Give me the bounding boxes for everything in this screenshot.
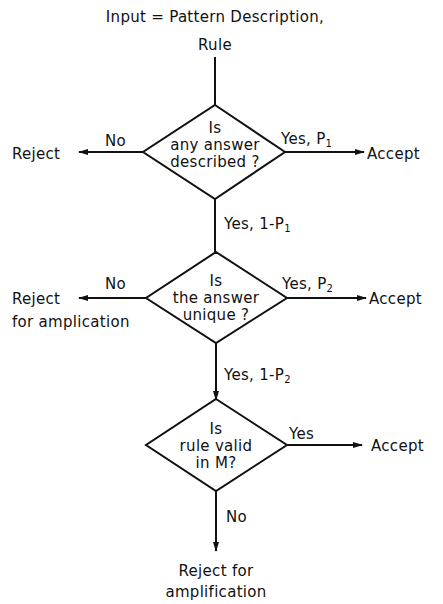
decision-1-down-label: Yes, 1-P1 (224, 215, 291, 238)
decision-2-yes-label: Yes, P2 (282, 275, 333, 298)
input-label-line2: Rule (60, 36, 370, 54)
decision-3-reject-line1: Reject for (116, 562, 316, 580)
yes-text: Yes, P (282, 275, 327, 293)
question-line: Is (150, 120, 280, 137)
decision-3-accept: Accept (371, 437, 424, 455)
decision-3-question: Is rule valid in M? (151, 421, 281, 472)
question-line: described ? (150, 154, 280, 171)
decision-2-reject-line2: for amplication (12, 313, 130, 331)
question-line: Is (151, 273, 281, 290)
decision-2-no-label: No (105, 275, 126, 293)
yes-text: Yes, 1-P (224, 366, 284, 384)
subscript: 1 (284, 223, 291, 234)
decision-1-accept: Accept (367, 145, 420, 163)
question-line: unique ? (151, 307, 281, 324)
decision-1-reject: Reject (12, 145, 60, 163)
yes-text: Yes, 1-P (224, 215, 284, 233)
decision-3-reject-line2: amplification (116, 583, 316, 601)
question-line: the answer (151, 290, 281, 307)
decision-2-accept: Accept (369, 290, 422, 308)
question-line: Is (151, 421, 281, 438)
yes-text: Yes, P (281, 130, 326, 148)
subscript: 1 (326, 138, 333, 149)
decision-3-no-label: No (226, 508, 247, 526)
decision-3-yes-label: Yes (289, 425, 314, 443)
decision-1-question: Is any answer described ? (150, 120, 280, 171)
subscript: 2 (327, 283, 334, 294)
decision-2-down-label: Yes, 1-P2 (224, 366, 291, 389)
decision-2-reject-line1: Reject (12, 290, 60, 308)
question-line: any answer (150, 137, 280, 154)
decision-1-no-label: No (105, 132, 126, 150)
decision-1-yes-label: Yes, P1 (281, 130, 332, 153)
subscript: 2 (284, 374, 291, 385)
input-label-line1: Input = Pattern Description, (60, 8, 370, 26)
question-line: rule valid (151, 438, 281, 455)
decision-2-question: Is the answer unique ? (151, 273, 281, 324)
question-line: in M? (151, 455, 281, 472)
